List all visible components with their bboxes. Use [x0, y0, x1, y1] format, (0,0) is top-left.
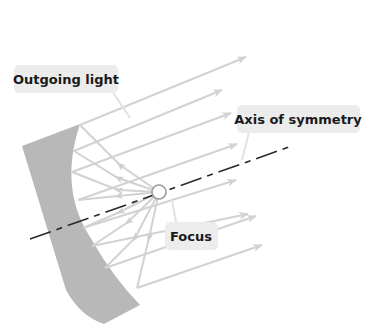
concave-mirror-diagram: Outgoing light Axis of symmetry Focus [0, 0, 371, 333]
svg-text:Outgoing light: Outgoing light [13, 72, 119, 87]
svg-text:Axis of symmetry: Axis of symmetry [234, 112, 362, 127]
svg-text:Focus: Focus [170, 229, 212, 244]
label-focus: Focus [165, 200, 218, 250]
label-axis-of-symmetry: Axis of symmetry [234, 105, 362, 160]
label-outgoing-light: Outgoing light [13, 65, 130, 118]
focus-point [152, 185, 166, 199]
